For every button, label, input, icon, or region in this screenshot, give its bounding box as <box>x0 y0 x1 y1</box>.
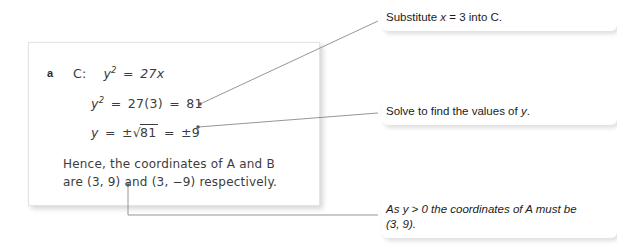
solution-card: a C: y2 = 27x y2 = 27(3) = 81 y = ± <box>28 42 320 206</box>
conclusion-line-1: Hence, the coordinates of A and B <box>63 155 313 173</box>
eq3-equals-2: = <box>162 125 177 140</box>
eq2-rhs: 81 <box>186 96 203 111</box>
annotation-solve-text-before: Solve to find the values of <box>386 105 521 117</box>
eq1-equals: = <box>121 66 136 81</box>
conclusion-text: Hence, the coordinates of A and B are (3… <box>63 155 313 191</box>
radicand: 81 <box>140 124 158 140</box>
eq2-middle: 27(3) <box>128 96 163 111</box>
eq2-equals-2: = <box>167 96 182 111</box>
square-root-expression: ±√81 <box>122 125 158 140</box>
eq1-lhs: y <box>103 66 111 81</box>
eq3-plus-minus: ± <box>122 125 133 140</box>
part-label: a <box>47 67 53 79</box>
equation-solved: y = ±√81 = ±9 <box>91 125 200 140</box>
eq2-lhs-exponent: 2 <box>99 95 105 105</box>
annotation-positive-root-line-1: As y > 0 the coordinates of A must be <box>386 202 609 217</box>
curve-label: C: <box>73 66 87 81</box>
eq3-rhs: ±9 <box>181 125 200 140</box>
eq1-rhs: 27x <box>140 66 164 81</box>
annotation-positive-root: As y > 0 the coordinates of A must be (3… <box>382 198 617 238</box>
eq2-equals-1: = <box>109 96 124 111</box>
annotation-substitute-text-after: = 3 into C. <box>446 11 502 23</box>
annotation-substitute-text-before: Substitute <box>386 11 440 23</box>
conclusion-line-2: are (3, 9) and (3, −9) respectively. <box>63 173 313 191</box>
annotation-positive-root-text-before: As <box>386 203 403 215</box>
equation-curve-definition: C: y2 = 27x <box>73 65 164 81</box>
annotated-solution-figure: a C: y2 = 27x y2 = 27(3) = 81 y = ± <box>0 0 617 246</box>
eq3-lhs: y <box>91 125 99 140</box>
equation-substituted: y2 = 27(3) = 81 <box>91 95 203 111</box>
annotation-positive-root-text-after: > 0 the coordinates of A must be <box>408 203 576 215</box>
annotation-substitute: Substitute x = 3 into C. <box>382 6 617 31</box>
eq1-lhs-exponent: 2 <box>111 65 117 75</box>
annotation-solve-text-after: . <box>527 105 530 117</box>
annotation-positive-root-line-2: (3, 9). <box>386 217 609 232</box>
eq3-equals-1: = <box>103 125 118 140</box>
eq2-lhs: y <box>91 96 99 111</box>
annotation-solve: Solve to find the values of y. <box>382 100 617 125</box>
